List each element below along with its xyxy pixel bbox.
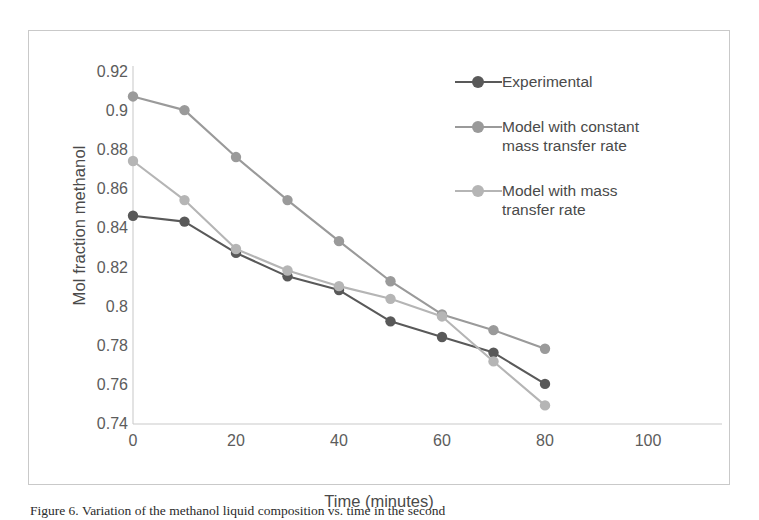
x-tick-label: 20	[206, 432, 266, 450]
legend-item: Model with constant mass transfer rate	[455, 117, 705, 155]
x-tick-label: 80	[515, 432, 575, 450]
legend-label: Experimental	[502, 72, 592, 91]
legend-swatch-icon	[455, 182, 502, 200]
legend-swatch-icon	[455, 118, 502, 136]
legend-item: Experimental	[455, 72, 705, 91]
x-tick-label: 60	[412, 432, 472, 450]
legend-swatch-icon	[455, 73, 502, 91]
legend-label: Model with mass transfer rate	[502, 181, 617, 219]
x-tick-label: 0	[103, 432, 163, 450]
x-tick-label: 40	[309, 432, 369, 450]
legend-item: Model with mass transfer rate	[455, 181, 705, 219]
chart-legend: ExperimentalModel with constant mass tra…	[455, 72, 705, 245]
figure-caption: Figure 6. Variation of the methanol liqu…	[30, 502, 730, 520]
legend-label: Model with constant mass transfer rate	[502, 117, 639, 155]
x-tick-label: 100	[618, 432, 678, 450]
